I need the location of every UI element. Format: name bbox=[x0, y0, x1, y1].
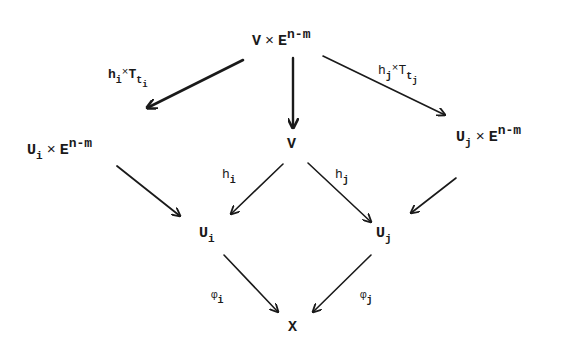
label-h-sub: j bbox=[343, 175, 349, 186]
node-right-exponent: n-m bbox=[498, 123, 521, 138]
label-phi: φ bbox=[360, 289, 367, 301]
label-hi-times-tti: hi×Tti bbox=[108, 68, 148, 81]
arrow-uj-to-x bbox=[313, 255, 371, 312]
label-phi-i: φi bbox=[211, 290, 224, 301]
node-right-base: U bbox=[456, 129, 465, 146]
arrow-top-to-left-product bbox=[147, 60, 243, 108]
label-h-sub: j bbox=[386, 71, 392, 82]
node-x: X bbox=[288, 320, 297, 335]
times-symbol: × bbox=[43, 142, 60, 159]
label-phi-sub: j bbox=[367, 295, 373, 306]
node-x-label: X bbox=[288, 319, 297, 336]
label-phi-j: φj bbox=[360, 290, 373, 301]
label-hi: hi bbox=[222, 168, 236, 181]
node-left-product: Ui×En-m bbox=[27, 143, 92, 158]
node-center-label: V bbox=[287, 136, 296, 153]
arrow-ui-to-x bbox=[224, 255, 278, 312]
label-T-subsub: i bbox=[142, 80, 147, 90]
label-h-sub: i bbox=[230, 175, 236, 186]
label-phi: φ bbox=[211, 289, 218, 301]
label-h: h bbox=[335, 167, 343, 182]
arrow-left-product-to-ui bbox=[117, 166, 180, 216]
node-left-base-sub: i bbox=[36, 150, 43, 162]
node-top-space: E bbox=[278, 33, 287, 50]
node-uj-base: U bbox=[376, 225, 385, 242]
label-h-sub: i bbox=[116, 75, 122, 86]
node-right-base-sub: j bbox=[465, 137, 472, 149]
node-ui-sub: i bbox=[208, 233, 215, 245]
label-phi-sub: i bbox=[218, 295, 224, 306]
node-ui: Ui bbox=[199, 226, 215, 241]
label-times: × bbox=[122, 66, 129, 78]
node-uj: Uj bbox=[376, 226, 392, 241]
node-left-space: E bbox=[60, 142, 69, 159]
label-hj-times-ttj: hj×Ttj bbox=[378, 64, 418, 77]
label-h: h bbox=[108, 67, 116, 82]
node-left-exponent: n-m bbox=[69, 136, 92, 151]
commutative-diagram: V×En-m Ui×En-m V Uj×En-m Ui Uj X hi×Tti … bbox=[0, 0, 585, 358]
node-right-space: E bbox=[489, 129, 498, 146]
node-top-base: V bbox=[252, 33, 261, 50]
label-h: h bbox=[378, 63, 386, 78]
arrow-center-to-ui bbox=[231, 164, 283, 214]
node-uj-sub: j bbox=[385, 233, 392, 245]
node-ui-base: U bbox=[199, 225, 208, 242]
times-symbol: × bbox=[472, 129, 489, 146]
times-symbol: × bbox=[261, 33, 278, 50]
node-top-exponent: n-m bbox=[287, 27, 310, 42]
node-top-product: V×En-m bbox=[252, 34, 310, 49]
label-hj: hj bbox=[335, 168, 349, 181]
arrows-layer bbox=[0, 0, 585, 358]
label-h: h bbox=[222, 167, 230, 182]
node-left-base: U bbox=[27, 142, 36, 159]
label-T-subsub: j bbox=[412, 76, 417, 86]
label-times: × bbox=[392, 62, 399, 74]
node-right-product: Uj×En-m bbox=[456, 130, 521, 145]
arrow-right-product-to-uj bbox=[411, 178, 456, 213]
node-center-v: V bbox=[287, 137, 296, 152]
